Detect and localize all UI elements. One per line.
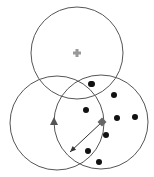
circles-group <box>10 7 148 170</box>
data-point-dot <box>114 115 120 121</box>
data-point-dot <box>83 107 89 113</box>
markers-group <box>50 49 107 127</box>
data-point-dot <box>96 159 102 165</box>
data-point-dot <box>111 92 117 98</box>
data-point-dot <box>85 148 91 154</box>
triangle-icon <box>50 117 58 125</box>
dots-group <box>83 81 138 165</box>
data-point-dot <box>132 114 138 120</box>
venn-diagram <box>0 0 154 177</box>
data-point-dot <box>89 81 95 87</box>
data-point-dot <box>103 132 109 138</box>
plus-icon <box>73 49 81 57</box>
